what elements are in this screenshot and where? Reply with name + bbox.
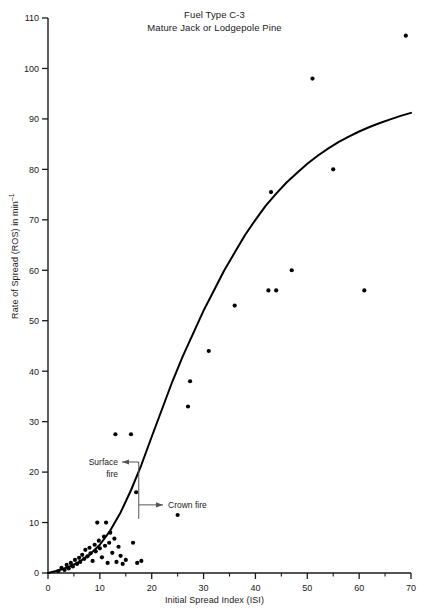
x-tick-label: 50 (302, 583, 312, 593)
data-point (362, 288, 366, 292)
data-point (129, 432, 133, 436)
y-tick-label: 60 (29, 266, 39, 276)
x-tick-label: 0 (45, 583, 50, 593)
data-point (56, 569, 60, 573)
data-point (77, 556, 81, 560)
x-tick-label: 40 (250, 583, 260, 593)
data-point (233, 303, 237, 307)
y-tick-label: 70 (29, 215, 39, 225)
data-point (404, 34, 408, 38)
data-point (114, 560, 118, 564)
data-point (94, 549, 98, 553)
crown-fire-label: Crown fire (168, 500, 207, 510)
x-tick-label: 30 (199, 583, 209, 593)
data-point (135, 561, 139, 565)
crown-fire-arrowhead (156, 502, 163, 507)
data-point (93, 543, 97, 547)
y-tick-label: 10 (29, 518, 39, 528)
data-point (290, 268, 294, 272)
axes (48, 18, 411, 573)
y-tick-label: 20 (29, 467, 39, 477)
data-point (83, 548, 87, 552)
data-point (108, 531, 112, 535)
data-point (176, 513, 180, 517)
data-point (112, 537, 116, 541)
y-tick-label: 0 (34, 568, 39, 578)
x-tick-label: 70 (406, 583, 416, 593)
x-tick-label: 20 (147, 583, 157, 593)
y-tick-label: 40 (29, 367, 39, 377)
data-point (139, 559, 143, 563)
data-point (186, 404, 190, 408)
x-tick-label: 60 (354, 583, 364, 593)
data-point (102, 535, 106, 539)
data-point (78, 560, 82, 564)
plot-area: 0102030405060708090100110 01020304050607… (0, 0, 429, 613)
data-point (124, 558, 128, 562)
data-point (331, 167, 335, 171)
data-point (119, 554, 123, 558)
chart-figure: Fuel Type C-3 Mature Jack or Lodgepole P… (0, 0, 429, 613)
data-point (113, 432, 117, 436)
data-point (91, 559, 95, 563)
data-point (106, 561, 110, 565)
surface-fire-label-line1: Surface (89, 457, 119, 467)
data-point (80, 553, 84, 557)
data-point (69, 561, 73, 565)
data-point (100, 555, 104, 559)
data-point (274, 288, 278, 292)
data-point (310, 76, 314, 80)
data-point (269, 190, 273, 194)
surface-fire-arrowhead (122, 459, 129, 464)
data-point (207, 349, 211, 353)
data-point (85, 554, 89, 558)
data-point (104, 520, 108, 524)
data-point (266, 288, 270, 292)
data-point (131, 541, 135, 545)
data-point (98, 546, 102, 550)
y-tick-label: 30 (29, 417, 39, 427)
data-point (88, 551, 92, 555)
y-tick-label: 80 (29, 165, 39, 175)
x-tick-label: 10 (95, 583, 105, 593)
data-point (71, 564, 75, 568)
data-point (87, 546, 91, 550)
fitted-curve (48, 113, 411, 573)
y-axis-ticks: 0102030405060708090100110 (24, 13, 48, 578)
data-point (110, 551, 114, 555)
annotations: SurfacefireCrown fire (89, 457, 207, 519)
y-tick-label: 90 (29, 114, 39, 124)
data-points (56, 34, 408, 574)
data-point (62, 568, 66, 572)
data-point (95, 520, 99, 524)
data-point (103, 544, 107, 548)
data-point (116, 545, 120, 549)
data-point (67, 566, 71, 570)
data-point (65, 563, 69, 567)
y-tick-label: 100 (24, 64, 39, 74)
data-point (73, 558, 77, 562)
y-tick-label: 50 (29, 316, 39, 326)
data-point (97, 539, 101, 543)
y-tick-label: 110 (25, 13, 39, 23)
data-point (134, 490, 138, 494)
data-point (188, 379, 192, 383)
surface-fire-label-line2: fire (106, 469, 118, 479)
x-axis-ticks: 010203040506070 (45, 573, 416, 593)
curve-path (48, 113, 411, 573)
data-point (107, 541, 111, 545)
data-point (121, 562, 125, 566)
